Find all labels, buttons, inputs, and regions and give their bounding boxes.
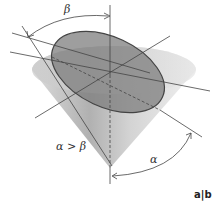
section-line-1-tail — [160, 110, 202, 137]
beta-arrow-left — [27, 31, 34, 37]
panel-label: a|b — [194, 189, 212, 200]
alpha-label: α — [150, 153, 157, 166]
cone-section-diagram: β α > β α a|b — [0, 0, 219, 204]
beta-label: β — [64, 3, 70, 16]
alpha-greater-beta-label: α > β — [56, 140, 86, 153]
diagram-canvas — [0, 0, 219, 204]
